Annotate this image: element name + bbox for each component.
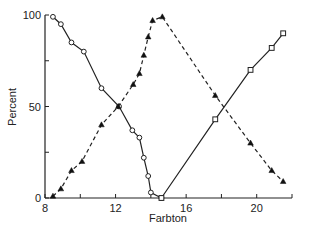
- triangle-marker: [58, 186, 64, 191]
- series-line: [161, 33, 283, 198]
- circle-marker: [81, 49, 86, 54]
- axes: 8121620050100: [23, 9, 292, 214]
- triangle-marker: [79, 158, 85, 163]
- x-tick-label: 20: [251, 202, 263, 214]
- x-tick-label: 8: [42, 202, 48, 214]
- square-marker: [213, 117, 218, 122]
- triangle-marker: [141, 52, 147, 57]
- square-marker: [269, 46, 274, 51]
- triangle-marker: [145, 34, 151, 39]
- series-open-square-solid: [159, 31, 286, 201]
- y-tick-label: 0: [35, 192, 41, 204]
- triangle-marker: [130, 82, 136, 87]
- triangle-marker: [150, 17, 156, 22]
- circle-marker: [51, 14, 56, 19]
- series-filled-triangle-dashed: [50, 14, 286, 198]
- circle-marker: [69, 40, 74, 45]
- series-layer: [50, 14, 286, 201]
- y-axis-title: Percent: [6, 88, 18, 126]
- square-marker: [248, 68, 253, 73]
- circle-marker: [148, 190, 153, 195]
- x-tick-label: 12: [109, 202, 121, 214]
- triangle-marker: [69, 168, 75, 173]
- y-tick-label: 100: [23, 9, 41, 21]
- circle-marker: [130, 128, 135, 133]
- circle-marker: [58, 22, 63, 27]
- circle-marker: [99, 86, 104, 91]
- triangle-marker: [160, 14, 166, 19]
- circle-marker: [137, 135, 142, 140]
- triangle-marker: [137, 71, 143, 76]
- circle-marker: [146, 174, 151, 179]
- x-axis-title: Farbton: [149, 212, 187, 224]
- triangle-marker: [99, 122, 105, 127]
- y-tick-label: 50: [29, 101, 41, 113]
- square-marker: [159, 196, 164, 201]
- line-chart: 8121620050100 Farbton Percent: [0, 0, 310, 231]
- circle-marker: [141, 155, 146, 160]
- series-line: [53, 17, 283, 196]
- square-marker: [281, 31, 286, 36]
- triangle-marker: [280, 179, 286, 184]
